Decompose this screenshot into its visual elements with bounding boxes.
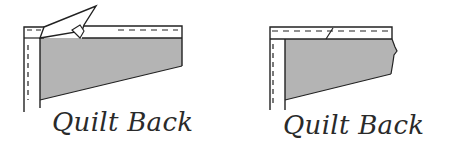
left-figure bbox=[24, 6, 182, 112]
quilt-back-fabric-left bbox=[40, 38, 182, 100]
miter-fold-line bbox=[326, 28, 333, 39]
right-figure bbox=[270, 27, 397, 110]
caption-left: Quilt Back bbox=[52, 107, 193, 137]
caption-right: Quilt Back bbox=[283, 110, 424, 140]
folded-binding-flap bbox=[40, 6, 96, 38]
quilt-back-fabric-right bbox=[285, 39, 397, 100]
